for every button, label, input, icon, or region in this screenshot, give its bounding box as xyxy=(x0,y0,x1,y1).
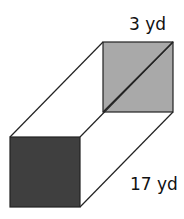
side-length-label: 3 yd xyxy=(129,14,166,34)
prism-length-label: 17 yd xyxy=(130,174,178,194)
prism-diagram: 3 yd 17 yd xyxy=(0,0,184,219)
edge-top-left xyxy=(10,42,103,137)
front-face xyxy=(10,137,80,207)
